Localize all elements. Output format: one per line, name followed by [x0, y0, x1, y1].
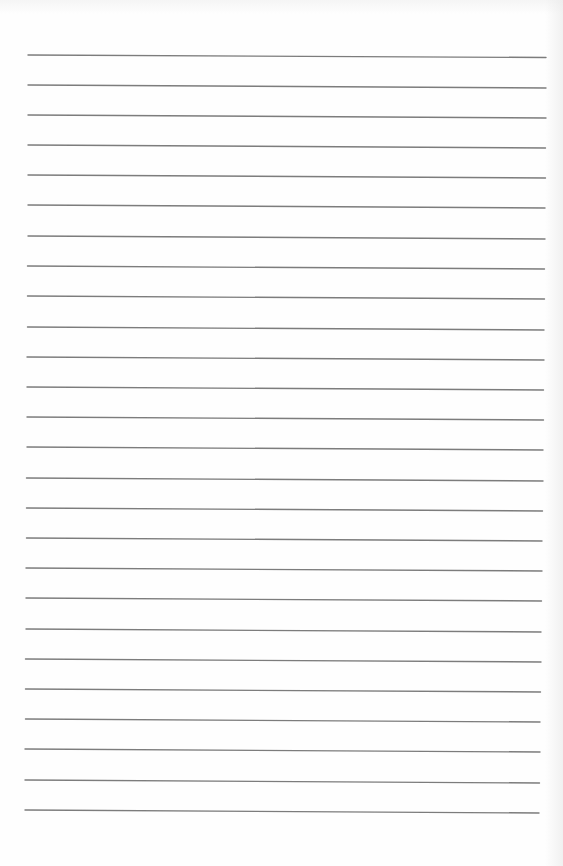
ruled-line-16 [27, 508, 543, 511]
ruled-line-25 [25, 780, 540, 783]
ruled-line-14 [27, 447, 543, 450]
ruled-line-18 [26, 568, 542, 571]
ruled-line-7 [28, 236, 545, 239]
ruled-line-17 [27, 538, 543, 541]
ruled-line-2 [28, 85, 546, 88]
ruled-line-19 [26, 598, 542, 601]
ruled-paper-page [0, 0, 563, 866]
ruled-line-6 [28, 205, 545, 208]
ruled-line-26 [25, 810, 539, 813]
ruled-line-9 [28, 296, 545, 299]
ruled-line-4 [28, 145, 546, 148]
ruled-line-1 [28, 55, 546, 58]
ruled-line-22 [26, 689, 541, 692]
ruled-line-10 [28, 327, 545, 330]
ruled-line-5 [28, 175, 546, 178]
ruled-line-8 [28, 266, 545, 269]
ruled-line-15 [27, 478, 544, 481]
ruled-line-20 [26, 629, 541, 632]
ruled-line-12 [27, 387, 544, 390]
ruled-line-3 [28, 115, 546, 118]
ruled-line-23 [26, 719, 541, 722]
ruled-line-13 [27, 417, 544, 420]
ruled-line-11 [27, 357, 544, 360]
ruled-lines [0, 0, 563, 866]
ruled-line-24 [25, 749, 540, 752]
ruled-line-21 [26, 659, 542, 662]
